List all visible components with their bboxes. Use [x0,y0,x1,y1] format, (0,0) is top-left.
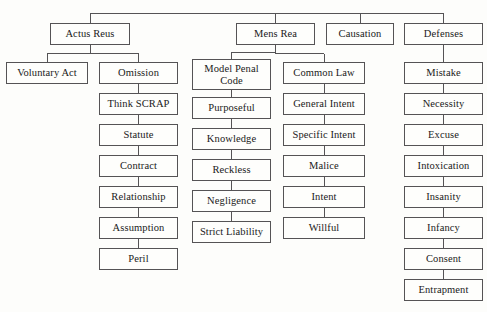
node-negligence[interactable]: Negligence [192,190,271,212]
node-entrapment[interactable]: Entrapment [404,279,483,301]
node-knowledge[interactable]: Knowledge [192,128,271,150]
node-intent[interactable]: Intent [283,186,365,208]
node-voluntary-act[interactable]: Voluntary Act [6,62,88,84]
node-defenses[interactable]: Defenses [404,23,483,45]
node-relationship[interactable]: Relationship [99,186,178,208]
node-mens-rea[interactable]: Mens Rea [236,23,315,45]
node-reckless[interactable]: Reckless [192,159,271,181]
node-specific-intent[interactable]: Specific Intent [283,124,365,146]
node-malice[interactable]: Malice [283,155,365,177]
node-consent[interactable]: Consent [404,248,483,270]
node-model-penal-code[interactable]: Model Penal Code [192,59,271,90]
node-infancy[interactable]: Infancy [404,217,483,239]
node-willful[interactable]: Willful [283,217,365,239]
node-excuse[interactable]: Excuse [404,124,483,146]
node-purposeful[interactable]: Purposeful [192,97,271,119]
node-omission[interactable]: Omission [99,62,178,84]
node-contract[interactable]: Contract [99,155,178,177]
node-think-scrap[interactable]: Think SCRAP [99,93,178,115]
node-statute[interactable]: Statute [99,124,178,146]
node-mistake[interactable]: Mistake [404,62,483,84]
node-causation[interactable]: Causation [326,23,394,45]
node-intoxication[interactable]: Intoxication [404,155,483,177]
node-insanity[interactable]: Insanity [404,186,483,208]
node-strict-liability[interactable]: Strict Liability [192,221,271,243]
node-assumption[interactable]: Assumption [99,217,178,239]
node-general-intent[interactable]: General Intent [283,93,365,115]
node-common-law[interactable]: Common Law [283,62,365,84]
criminal-law-hierarchy-diagram: Actus ReusMens ReaCausationDefensesVolun… [0,0,487,312]
node-peril[interactable]: Peril [99,248,178,270]
node-necessity[interactable]: Necessity [404,93,483,115]
node-actus-reus[interactable]: Actus Reus [50,23,130,45]
